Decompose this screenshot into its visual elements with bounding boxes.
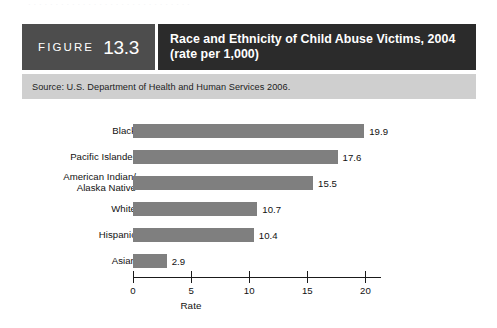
x-axis-tick	[133, 271, 134, 283]
bar	[133, 254, 167, 268]
figure-number: 13.3	[103, 37, 139, 59]
bar-value-label: 10.4	[259, 230, 278, 241]
bar	[133, 176, 313, 190]
x-axis-tick	[307, 271, 308, 283]
x-axis-tick	[191, 271, 192, 283]
source-band: Source: U.S. Department of Health and Hu…	[22, 74, 476, 99]
bar-value-label: 10.7	[262, 204, 281, 215]
x-axis-title: Rate	[180, 300, 201, 311]
x-axis-tick-label: 20	[360, 285, 371, 296]
figure-label-word: FIGURE	[38, 41, 94, 53]
x-axis-tick-label: 0	[130, 285, 135, 296]
figure-number-block: FIGURE 13.3	[22, 24, 155, 70]
bar	[133, 228, 254, 242]
category-label: Hispanic	[99, 229, 136, 241]
bar-chart: Rate Black19.9Pacific Islander17.6Americ…	[0, 112, 497, 328]
figure-header: FIGURE 13.3 Race and Ethnicity of Child …	[22, 24, 476, 70]
source-text: Source: U.S. Department of Health and Hu…	[32, 82, 290, 92]
x-axis-tick-label: 10	[244, 285, 255, 296]
figure-title-block: Race and Ethnicity of Child Abuse Victim…	[158, 24, 476, 70]
figure-title: Race and Ethnicity of Child Abuse Victim…	[170, 32, 468, 62]
plot-area: Rate Black19.9Pacific Islander17.6Americ…	[0, 112, 497, 328]
page-top-cutoff-text: · · · · · · · · · · · · · · · · · · · · …	[28, 0, 468, 9]
x-axis-line	[133, 277, 381, 278]
bar-value-label: 19.9	[369, 126, 388, 137]
bar-value-label: 15.5	[318, 178, 337, 189]
bar	[133, 150, 338, 164]
x-axis-tick	[365, 271, 366, 283]
bar-value-label: 17.6	[343, 152, 362, 163]
x-axis-tick-label: 5	[188, 285, 193, 296]
category-label: Pacific Islander	[70, 151, 136, 163]
bar	[133, 202, 257, 216]
bar-value-label: 2.9	[172, 256, 186, 267]
x-axis-tick	[249, 271, 250, 283]
bar	[133, 124, 364, 138]
category-label: American Indian/ Alaska Native	[63, 171, 136, 194]
x-axis-tick-label: 15	[302, 285, 313, 296]
